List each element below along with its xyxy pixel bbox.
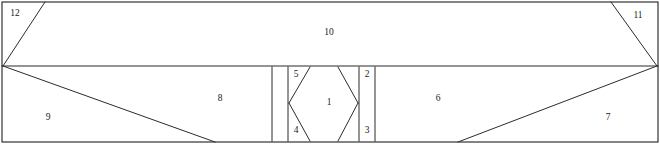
region-label-12: 12 [10,8,20,18]
diagram-container: 1 2 3 4 5 6 7 8 9 10 11 12 [0,0,660,144]
diagram-canvas: 1 2 3 4 5 6 7 8 9 10 11 12 [0,0,660,144]
region-label-5: 5 [294,69,299,79]
region-label-1: 1 [327,97,332,107]
diagram-background [0,0,660,144]
region-label-10: 10 [324,27,334,37]
region-label-2: 2 [365,69,370,79]
region-label-9: 9 [46,112,51,122]
region-label-8: 8 [218,93,223,103]
region-label-6: 6 [436,93,441,103]
region-label-7: 7 [606,112,611,122]
region-label-3: 3 [365,125,370,135]
region-label-4: 4 [294,125,299,135]
region-label-11: 11 [633,10,642,20]
